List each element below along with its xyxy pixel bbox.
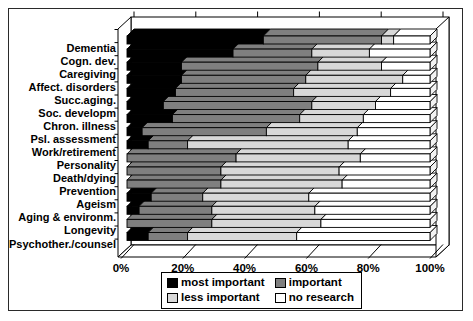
bar-segment-no-research	[315, 206, 430, 214]
category-label: Succ.aging.	[54, 94, 116, 106]
bar-segment-less-important	[312, 49, 370, 57]
bar-segment-most-important	[127, 102, 163, 110]
bar-segment-no-research	[297, 233, 430, 241]
bar-segment-no-research	[342, 180, 430, 188]
legend-swatch	[275, 293, 286, 303]
bar-segment-important	[139, 206, 212, 214]
x-axis-label: 0%	[113, 262, 130, 274]
legend-item: important	[275, 275, 354, 290]
category-label: Personality	[57, 159, 117, 171]
chart-image: DementiaCogn. dev.CaregivingAffect. diso…	[0, 0, 473, 321]
legend-label: most important	[181, 275, 265, 290]
bar-segment-most-important	[127, 75, 182, 83]
bar-segment-no-research	[375, 102, 430, 110]
bar-segment-less-important	[382, 36, 394, 44]
bar-segment-most-important	[127, 128, 142, 136]
category-label: Affect. disorders	[29, 81, 116, 93]
bar-segment-less-important	[188, 233, 297, 241]
bar-segment-important	[148, 141, 187, 149]
category-label: Ageism	[76, 198, 116, 210]
bar-segment-no-research	[339, 167, 430, 175]
bar-segment-no-research	[309, 193, 430, 201]
bar-segment-less-important	[236, 154, 360, 162]
legend-label: no research	[289, 290, 354, 305]
bar-segment-important	[182, 62, 318, 70]
category-label: Dementia	[66, 42, 116, 54]
legend-swatch	[167, 293, 178, 303]
bar-segment-less-important	[266, 128, 357, 136]
bar-segment-no-research	[348, 141, 430, 149]
bar-segment-less-important	[318, 62, 382, 70]
category-label: Cogn. dev.	[61, 55, 116, 67]
bar-segment-less-important	[221, 180, 342, 188]
bar-segment-no-research	[369, 49, 430, 57]
legend-label: less important	[181, 290, 260, 305]
legend-swatch	[275, 278, 286, 288]
bar-segment-most-important	[127, 141, 148, 149]
legend-item: no research	[275, 290, 354, 305]
bar-segment-most-important	[127, 36, 263, 44]
bar-segment-important	[151, 193, 203, 201]
category-label: Longevity	[64, 224, 117, 236]
bar-segment-less-important	[312, 102, 376, 110]
bar-segment-important	[127, 180, 221, 188]
bar-segment-important	[148, 233, 187, 241]
bar-segment-most-important	[127, 62, 182, 70]
bar-segment-less-important	[221, 167, 339, 175]
legend-item: less important	[167, 290, 265, 305]
bar-segment-less-important	[294, 88, 391, 96]
legend-swatch	[167, 278, 178, 288]
bar-segment-less-important	[300, 115, 364, 123]
bar-segment-no-research	[363, 115, 430, 123]
category-label: Prevention	[59, 185, 116, 197]
bar-segment-less-important	[203, 193, 309, 201]
legend: most importantimportantless importantno …	[161, 272, 362, 309]
category-label: Work/retirement	[32, 146, 116, 158]
bar-segment-important	[127, 219, 212, 227]
bar-segment-important	[127, 167, 221, 175]
bar-segment-important	[233, 49, 312, 57]
category-label: Soc. developm	[38, 107, 116, 119]
category-label: Chron. illness	[43, 120, 116, 132]
bar-segment-most-important	[127, 115, 172, 123]
bar-segment-less-important	[212, 219, 321, 227]
bar-segment-important	[172, 115, 299, 123]
bar-segment-top-face	[394, 29, 437, 36]
right-wall	[436, 17, 449, 257]
bar-segment-no-research	[382, 62, 430, 70]
bar-segment-no-research	[321, 219, 430, 227]
category-label: Caregiving	[59, 68, 116, 80]
bar-segment-most-important	[127, 233, 148, 241]
category-label: Psl. assessment	[30, 133, 116, 145]
bar-segment-less-important	[188, 141, 349, 149]
category-label: Aging & environm.	[18, 211, 116, 223]
legend-label: important	[289, 275, 342, 290]
category-label: Death/dying	[53, 172, 116, 184]
bar-segment-important	[142, 128, 266, 136]
bar-segment-top-face	[263, 29, 388, 36]
bar-segment-important	[263, 36, 381, 44]
bar-segment-no-research	[391, 88, 430, 96]
bar-segment-most-important	[127, 88, 175, 96]
bar-segment-important	[163, 102, 311, 110]
bar-segment-no-research	[394, 36, 430, 44]
bar-segment-most-important	[127, 206, 139, 214]
bar-segment-important	[182, 75, 306, 83]
floor	[118, 245, 449, 257]
bar-segment-important	[127, 154, 236, 162]
x-axis-label: 100%	[415, 262, 444, 274]
bar-segment-important	[175, 88, 293, 96]
bar-segment-less-important	[212, 206, 315, 214]
bar-segment-no-research	[360, 154, 430, 162]
bar-segment-no-research	[403, 75, 430, 83]
legend-item: most important	[167, 275, 265, 290]
bar-segment-less-important	[306, 75, 403, 83]
bar-segment-no-research	[357, 128, 430, 136]
category-label: Psychother./counsel	[9, 238, 116, 250]
bar-segment-top-face	[127, 29, 270, 36]
bar-segment-most-important	[127, 49, 233, 57]
bar-segment-most-important	[127, 193, 151, 201]
